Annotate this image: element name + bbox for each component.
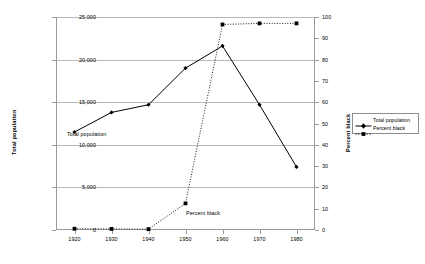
tickmark-right-20 bbox=[315, 187, 319, 188]
xtickmark-1970 bbox=[260, 230, 261, 234]
tickmark-right-0 bbox=[315, 230, 319, 231]
ytick-left-15000: 15,000 bbox=[79, 99, 96, 105]
tickmark-right-40 bbox=[315, 145, 319, 146]
annotation-total-population: Total population bbox=[67, 131, 106, 137]
xtick-1970: 1970 bbox=[253, 236, 265, 242]
tickmark-right-90 bbox=[315, 38, 319, 39]
ytick-right-80: 80 bbox=[322, 57, 328, 63]
tickmark-right-10 bbox=[315, 209, 319, 210]
ytick-right-90: 90 bbox=[322, 35, 328, 41]
annotation-percent-black: Percent black bbox=[186, 210, 220, 216]
legend-key-dotted-square-icon bbox=[355, 124, 372, 132]
tickmark-right-70 bbox=[315, 81, 319, 82]
ytick-left-25000: 25,000 bbox=[79, 14, 96, 20]
ytick-right-40: 40 bbox=[322, 142, 328, 148]
legend-item-percent-black[interactable]: Percent black bbox=[355, 124, 416, 132]
xtick-1930: 1930 bbox=[105, 236, 117, 242]
ytick-right-0: 0 bbox=[322, 227, 325, 233]
ytick-right-30: 30 bbox=[322, 163, 328, 169]
ytick-left-10000: 10,000 bbox=[79, 142, 96, 148]
ytick-right-10: 10 bbox=[322, 206, 328, 212]
y-axis-left-title: Total population bbox=[11, 110, 17, 155]
xtick-1920: 1920 bbox=[68, 236, 80, 242]
ytick-right-100: 100 bbox=[322, 14, 331, 20]
ytick-right-20: 20 bbox=[322, 184, 328, 190]
xtickmark-1940 bbox=[149, 230, 150, 234]
legend-item-total-population[interactable]: Total population bbox=[355, 116, 416, 124]
xtickmark-1980 bbox=[297, 230, 298, 234]
tickmark-left-25000 bbox=[52, 17, 56, 18]
tickmark-left-15000 bbox=[52, 102, 56, 103]
xtickmark-1930 bbox=[112, 230, 113, 234]
xtickmark-1950 bbox=[186, 230, 187, 234]
tickmark-right-80 bbox=[315, 60, 319, 61]
ytick-left-0: 0 bbox=[93, 227, 96, 233]
plot-area bbox=[56, 17, 315, 230]
ytick-right-70: 70 bbox=[322, 78, 328, 84]
ytick-left-20000: 20,000 bbox=[79, 57, 96, 63]
tickmark-right-60 bbox=[315, 102, 319, 103]
tickmark-right-30 bbox=[315, 166, 319, 167]
legend: Total population Percent black bbox=[352, 113, 419, 134]
ytick-right-50: 50 bbox=[322, 121, 328, 127]
tickmark-right-100 bbox=[315, 17, 319, 18]
xtickmark-1960 bbox=[223, 230, 224, 234]
y-axis-right-title: Percent black bbox=[345, 114, 351, 152]
xtickmark-1920 bbox=[75, 230, 76, 234]
legend-key-solid-diamond-icon bbox=[355, 116, 372, 124]
tickmark-left-5000 bbox=[52, 187, 56, 188]
xtick-1940: 1940 bbox=[142, 236, 154, 242]
xtick-1960: 1960 bbox=[216, 236, 228, 242]
tickmark-right-50 bbox=[315, 124, 319, 125]
ytick-left-5000: 5,000 bbox=[82, 184, 96, 190]
legend-label-total-population: Total population bbox=[373, 117, 410, 123]
xtick-1980: 1980 bbox=[290, 236, 302, 242]
tickmark-left-10000 bbox=[52, 145, 56, 146]
xtick-1950: 1950 bbox=[179, 236, 191, 242]
legend-label-percent-black: Percent black bbox=[373, 125, 405, 131]
tickmark-left-20000 bbox=[52, 60, 56, 61]
ytick-right-60: 60 bbox=[322, 99, 328, 105]
chart-container: 25,000 20,000 15,000 10,000 5,000 0 100 … bbox=[0, 0, 425, 264]
tickmark-left-0 bbox=[52, 230, 56, 231]
